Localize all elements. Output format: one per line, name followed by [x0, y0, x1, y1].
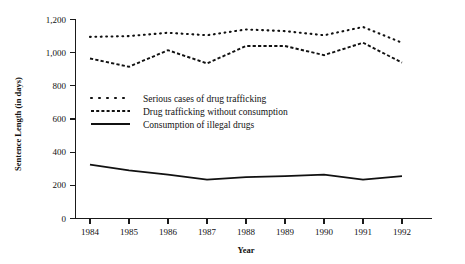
x-tick-label-1984: 1984: [81, 227, 100, 237]
x-tick-label-1989: 1989: [276, 227, 295, 237]
x-tick-label-1985: 1985: [120, 227, 139, 237]
x-tick-label-1986: 1986: [159, 227, 178, 237]
x-tick-label-1987: 1987: [198, 227, 217, 237]
y-tick-label-200: 200: [53, 180, 67, 190]
legend-label-consumption: Consumption of illegal drugs: [143, 120, 254, 130]
series-line-trafficking-without-consumption: [90, 43, 402, 67]
chart-container: Sentence Length (in days) 0 200 400 600 …: [0, 0, 465, 264]
legend-label-serious-cases: Serious cases of drug trafficking: [143, 94, 267, 104]
x-tick-label-1988: 1988: [237, 227, 256, 237]
y-axis-tick-labels: 0 200 400 600 800 1,000 1,200: [46, 15, 67, 224]
y-tick-label-1200: 1,200: [46, 15, 67, 25]
x-axis-ticks: [90, 219, 402, 225]
y-tick-label-1000: 1,000: [46, 48, 67, 58]
x-axis-title: Year: [238, 245, 255, 255]
y-axis-title: Sentence Length (in days): [13, 77, 23, 171]
x-tick-label-1990: 1990: [315, 227, 334, 237]
x-tick-label-1992: 1992: [393, 227, 411, 237]
y-axis-ticks: [70, 20, 76, 219]
series-line-consumption: [90, 165, 402, 180]
y-tick-label-0: 0: [62, 214, 67, 224]
line-chart: Sentence Length (in days) 0 200 400 600 …: [0, 0, 465, 264]
y-tick-label-600: 600: [53, 114, 67, 124]
y-tick-label-400: 400: [53, 147, 67, 157]
chart-legend: Serious cases of drug trafficking Drug t…: [91, 94, 288, 130]
legend-label-trafficking-without-consumption: Drug trafficking without consumption: [143, 107, 288, 117]
y-tick-label-800: 800: [53, 81, 67, 91]
x-tick-label-1991: 1991: [354, 227, 372, 237]
x-axis-tick-labels: 1984 1985 1986 1987 1988 1989 1990 1991 …: [81, 227, 411, 237]
series-line-serious-cases: [90, 27, 402, 43]
